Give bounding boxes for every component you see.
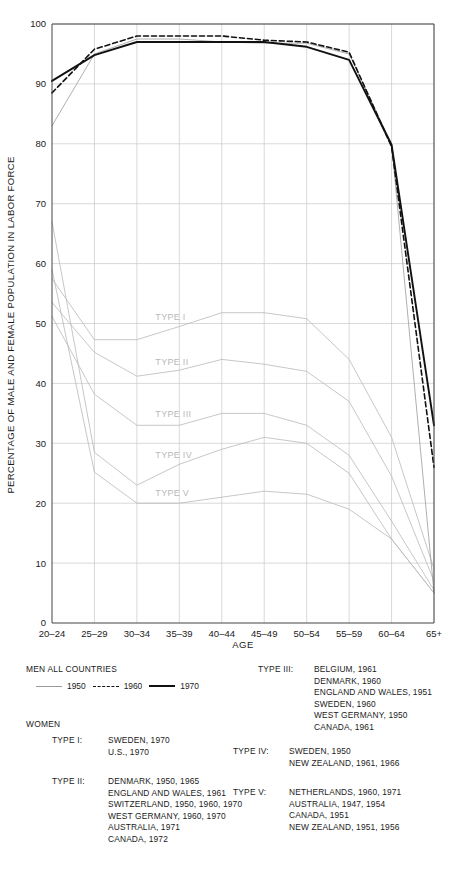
legend-type-countries: DENMARK, 1950, 1965 ENGLAND AND WALES, 1…	[108, 776, 242, 846]
inline-label-type-i: TYPE I	[155, 312, 185, 322]
chart-page: 0102030405060708090100 20–2425–2930–3435…	[0, 0, 455, 873]
x-tick-label: 25–29	[81, 628, 107, 639]
legend-country: AUSTRALIA, 1971	[108, 822, 242, 834]
legend-country: NEW ZEALAND, 1961, 1966	[289, 758, 400, 770]
legend-men-1960-label: 1960	[124, 681, 143, 691]
x-tick-label: 65+	[426, 628, 443, 639]
y-tick-label: 60	[35, 258, 46, 269]
x-tick-label: 30–34	[124, 628, 150, 639]
legend-country: NETHERLANDS, 1960, 1971	[289, 787, 401, 799]
legend-women-type-1: TYPE I: SWEDEN, 1970 U.S., 1970	[52, 735, 170, 758]
inline-label-type-v: TYPE V	[155, 488, 189, 498]
legend-men-1950: 1950	[36, 681, 86, 691]
line-style-1960-icon	[93, 686, 119, 687]
y-tick-label: 20	[35, 498, 46, 509]
x-tick-label: 60–64	[378, 628, 404, 639]
legend-country: ENGLAND AND WALES, 1961	[108, 788, 242, 800]
legend-women-heading-block: WOMEN	[26, 719, 60, 729]
y-axis-title: PERCENTAGE OF MALE AND FEMALE POPULATION…	[5, 156, 16, 493]
y-tick-label: 40	[35, 378, 46, 389]
legend-country: CANADA, 1951	[289, 810, 401, 822]
inline-label-type-ii: TYPE II	[155, 357, 188, 367]
legend-type-countries: BELGIUM, 1961 DENMARK, 1960 ENGLAND AND …	[314, 664, 432, 734]
legend-type-label: TYPE I:	[52, 735, 108, 747]
series-line-type-v	[52, 270, 434, 593]
legend-type-countries: SWEDEN, 1970 U.S., 1970	[108, 735, 170, 758]
x-axis-ticks: 20–2425–2930–3435–3940–4445–4950–5455–59…	[39, 628, 443, 639]
x-tick-label: 20–24	[39, 628, 65, 639]
legend-country: U.S., 1970	[108, 747, 170, 759]
series-line-type-i	[52, 279, 434, 569]
legend-country: SWEDEN, 1950	[289, 746, 400, 758]
legend-men-1970: 1970	[149, 681, 199, 691]
x-tick-label: 35–39	[166, 628, 192, 639]
legend-men-block: MEN ALL COUNTRIES 1950 1960 1970	[26, 664, 199, 691]
series-line-type-iii	[52, 316, 434, 590]
x-axis-title: AGE	[232, 639, 253, 650]
legend-men-1950-label: 1950	[67, 681, 86, 691]
y-tick-label: 30	[35, 438, 46, 449]
inline-label-type-iii: TYPE III	[155, 409, 191, 419]
legend-women-type-2: TYPE II: DENMARK, 1950, 1965 ENGLAND AND…	[52, 776, 242, 846]
line-style-1970-icon	[149, 685, 175, 687]
y-tick-label: 0	[41, 617, 46, 628]
series-line-men-all-countries-1960	[52, 36, 434, 467]
legend-type-label: TYPE V:	[233, 787, 289, 799]
legend-type-label: TYPE IV:	[233, 746, 289, 758]
legend-country: DENMARK, 1960	[314, 676, 432, 688]
legend-country: DENMARK, 1950, 1965	[108, 776, 242, 788]
y-tick-label: 10	[35, 558, 46, 569]
legend-country: AUSTRALIA, 1947, 1954	[289, 799, 401, 811]
women-series-group	[52, 222, 434, 593]
legend-country: WEST GERMANY, 1960, 1970	[108, 811, 242, 823]
x-tick-label: 50–54	[293, 628, 319, 639]
series-line-type-ii	[52, 303, 434, 582]
legend-men-1970-label: 1970	[180, 681, 199, 691]
y-tick-label: 90	[35, 78, 46, 89]
series-line-men-all-countries-1970	[52, 42, 434, 425]
legend-country: NEW ZEALAND, 1951, 1956	[289, 822, 401, 834]
inline-label-type-iv: TYPE IV	[155, 450, 192, 460]
series-line-type-iv	[52, 222, 434, 593]
legend-type-label: TYPE III:	[258, 664, 314, 676]
legend-men-swatches: 1950 1960 1970	[36, 681, 199, 691]
legend-country: ENGLAND AND WALES, 1951	[314, 687, 432, 699]
legend-men-heading: MEN ALL COUNTRIES	[26, 664, 199, 674]
labor-force-line-chart: 0102030405060708090100 20–2425–2930–3435…	[0, 0, 455, 650]
y-tick-label: 80	[35, 138, 46, 149]
legend-country: SWEDEN, 1960	[314, 699, 432, 711]
y-axis-ticks: 0102030405060708090100	[30, 18, 46, 628]
y-tick-label: 100	[30, 18, 46, 29]
men-series-group	[52, 36, 434, 593]
y-tick-label: 70	[35, 198, 46, 209]
x-tick-label: 45–49	[251, 628, 277, 639]
legend-country: CANADA, 1972	[108, 834, 242, 846]
chart-legend: MEN ALL COUNTRIES 1950 1960 1970 WOMEN	[0, 650, 455, 873]
legend-country: SWITZERLAND, 1950, 1960, 1970	[108, 799, 242, 811]
legend-type-countries: SWEDEN, 1950 NEW ZEALAND, 1961, 1966	[289, 746, 400, 769]
y-tick-label: 50	[35, 318, 46, 329]
legend-women-type-4: TYPE IV: SWEDEN, 1950 NEW ZEALAND, 1961,…	[233, 746, 400, 769]
x-tick-label: 55–59	[336, 628, 362, 639]
legend-women-heading: WOMEN	[26, 719, 60, 729]
series-line-men-all-countries-1950	[52, 39, 434, 593]
legend-men-1960: 1960	[93, 681, 143, 691]
legend-country: BELGIUM, 1961	[314, 664, 432, 676]
legend-country: CANADA, 1961	[314, 722, 432, 734]
line-style-1950-icon	[36, 686, 62, 687]
legend-type-countries: NETHERLANDS, 1960, 1971 AUSTRALIA, 1947,…	[289, 787, 401, 833]
legend-women-type-3: TYPE III: BELGIUM, 1961 DENMARK, 1960 EN…	[258, 664, 432, 734]
legend-country: WEST GERMANY, 1950	[314, 710, 432, 722]
legend-women-type-5: TYPE V: NETHERLANDS, 1960, 1971 AUSTRALI…	[233, 787, 401, 833]
x-tick-label: 40–44	[209, 628, 235, 639]
legend-country: SWEDEN, 1970	[108, 735, 170, 747]
legend-type-label: TYPE II:	[52, 776, 108, 788]
inline-type-labels: TYPE ITYPE IITYPE IIITYPE IVTYPE V	[155, 312, 192, 498]
